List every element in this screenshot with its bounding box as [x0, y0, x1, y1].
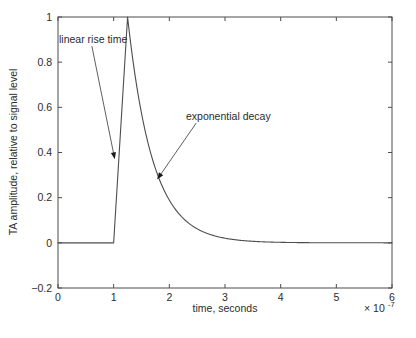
annotation-arrow-line-exponential-decay — [160, 123, 196, 175]
chart-plot: 0123456 −0.200.20.40.60.81 linear rise t… — [0, 0, 416, 338]
axes-frame — [58, 17, 392, 288]
axis-ticks — [58, 17, 392, 288]
y-tick-label: 0.8 — [37, 56, 52, 68]
annotation-linear-rise-time: linear rise time — [59, 33, 127, 159]
annotation-label-exponential-decay: exponential decay — [186, 110, 271, 122]
y-tick-label: 0.2 — [37, 191, 52, 203]
annotation-arrow-head-linear-rise-time — [111, 152, 116, 159]
x-axis-exponent-base: × 10 — [364, 302, 385, 314]
y-tick-label: −0.2 — [31, 282, 52, 294]
x-axis-exponent-power: -7 — [388, 300, 395, 309]
x-axis-exponent: × 10 -7 — [364, 300, 395, 314]
x-tick-label: 5 — [333, 291, 339, 303]
y-tick-labels: −0.200.20.40.60.81 — [31, 11, 52, 294]
x-tick-label: 2 — [166, 291, 172, 303]
figure-canvas: 0123456 −0.200.20.40.60.81 linear rise t… — [0, 0, 416, 338]
x-tick-label: 1 — [111, 291, 117, 303]
y-tick-label: 1 — [46, 11, 52, 23]
y-axis-title: TA amplitude, relative to signal level — [7, 69, 19, 236]
annotation-arrow-line-linear-rise-time — [92, 46, 114, 154]
annotation-label-linear-rise-time: linear rise time — [59, 33, 127, 45]
x-tick-label: 4 — [278, 291, 284, 303]
data-series-line — [58, 17, 392, 243]
x-axis-title: time, seconds — [193, 302, 258, 314]
y-tick-label: 0.4 — [37, 146, 52, 158]
x-tick-label: 0 — [55, 291, 61, 303]
y-tick-label: 0.6 — [37, 101, 52, 113]
annotation-exponential-decay: exponential decay — [157, 110, 271, 180]
y-tick-label: 0 — [46, 237, 52, 249]
plot-border — [58, 17, 392, 288]
